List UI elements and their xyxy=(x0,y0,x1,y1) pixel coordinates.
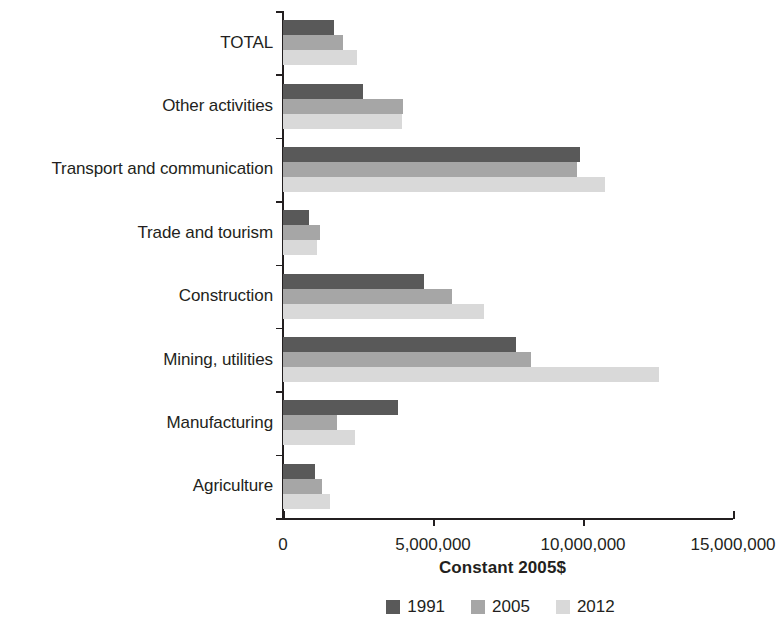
legend-item: 2012 xyxy=(556,598,615,616)
y-axis-tick xyxy=(276,201,283,203)
legend-swatch-icon xyxy=(386,600,400,614)
bar xyxy=(283,352,531,367)
y-axis-category-label: Mining, utilities xyxy=(0,350,273,370)
plot-area: 05,000,00010,000,00015,000,000 xyxy=(283,11,733,518)
y-axis-tick xyxy=(276,391,283,393)
x-axis-tick-label: 5,000,000 xyxy=(395,535,471,555)
legend-label: 1991 xyxy=(407,598,445,616)
bar xyxy=(283,177,605,192)
bar xyxy=(283,20,334,35)
bar xyxy=(283,99,403,114)
bar xyxy=(283,240,317,255)
bar-chart: AgricultureManufacturingMining, utilitie… xyxy=(0,0,779,627)
bar xyxy=(283,304,484,319)
x-axis-tick xyxy=(733,511,735,519)
x-axis-tick-label: 15,000,000 xyxy=(690,535,775,555)
x-axis-title: Constant 2005$ xyxy=(0,558,779,578)
y-axis-category-label: TOTAL xyxy=(0,33,273,53)
bar xyxy=(283,400,398,415)
bar xyxy=(283,367,659,382)
bar xyxy=(283,114,402,129)
y-axis-tick xyxy=(276,138,283,140)
y-axis-tick xyxy=(276,74,283,76)
y-axis-tick xyxy=(276,518,283,520)
y-axis-tick xyxy=(276,11,283,13)
y-axis-category-label: Trade and tourism xyxy=(0,223,273,243)
y-axis-category-label: Other activities xyxy=(0,96,273,116)
bar xyxy=(283,35,343,50)
x-axis-title-text: Constant 2005$ xyxy=(439,558,566,578)
x-axis-tick xyxy=(283,511,285,519)
bar xyxy=(283,162,577,177)
legend-swatch-icon xyxy=(471,600,485,614)
legend-item: 2005 xyxy=(471,598,530,616)
y-axis-tick xyxy=(276,265,283,267)
bar xyxy=(283,274,424,289)
y-axis-category-label: Construction xyxy=(0,286,273,306)
bar xyxy=(283,464,315,479)
legend-swatch-icon xyxy=(556,600,570,614)
bar xyxy=(283,210,309,225)
bar xyxy=(283,84,363,99)
chart-legend: 199120052012 xyxy=(0,598,779,616)
y-axis-category-label: Manufacturing xyxy=(0,413,273,433)
bar xyxy=(283,337,516,352)
y-axis-category-labels: AgricultureManufacturingMining, utilitie… xyxy=(0,11,273,518)
bar xyxy=(283,147,580,162)
y-axis-tick xyxy=(276,455,283,457)
bar xyxy=(283,494,330,509)
x-axis-tick-label: 10,000,000 xyxy=(540,535,625,555)
x-axis-tick xyxy=(583,518,585,526)
legend-label: 2012 xyxy=(577,598,615,616)
legend-label: 2005 xyxy=(492,598,530,616)
y-axis-category-label: Agriculture xyxy=(0,476,273,496)
x-axis-tick xyxy=(433,518,435,526)
y-axis-tick xyxy=(276,328,283,330)
bar xyxy=(283,430,355,445)
y-axis-category-label: Transport and communication xyxy=(0,159,273,179)
x-axis-tick-label: 0 xyxy=(278,535,287,555)
legend-items: 199120052012 xyxy=(373,598,627,616)
legend-item: 1991 xyxy=(386,598,445,616)
x-axis-line xyxy=(282,518,733,520)
bar xyxy=(283,415,337,430)
bar xyxy=(283,50,357,65)
bar xyxy=(283,225,320,240)
bar xyxy=(283,289,452,304)
bar xyxy=(283,479,322,494)
